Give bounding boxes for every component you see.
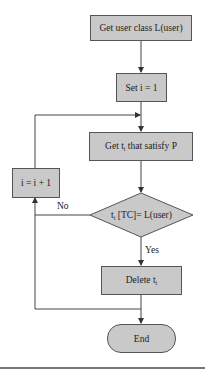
node-end: End [107,324,176,353]
node-delete-ti: Delete ti [101,266,182,295]
bottom-rule-divider [0,367,205,369]
node-get-ti-label: Get ti that satisfy P [105,141,177,152]
node-increment-i-label: i = i + 1 [21,178,51,188]
decision-label: ti [TC]= L(user) [90,204,193,226]
node-increment-i: i = i + 1 [12,168,60,198]
node-set-i-label: Set i = 1 [125,83,157,93]
node-get-user-class: Get user class L(user) [90,15,192,41]
node-get-ti: Get ti that satisfy P [89,132,193,161]
node-end-label: End [134,334,149,344]
edge-label-no: No [57,201,69,211]
node-get-user-class-label: Get user class L(user) [99,23,182,33]
node-delete-ti-label: Delete ti [126,275,157,286]
flowchart: Get user class L(user) Set i = 1 Get ti … [0,0,206,371]
node-set-i: Set i = 1 [116,73,167,102]
edge-label-yes: Yes [145,245,159,255]
